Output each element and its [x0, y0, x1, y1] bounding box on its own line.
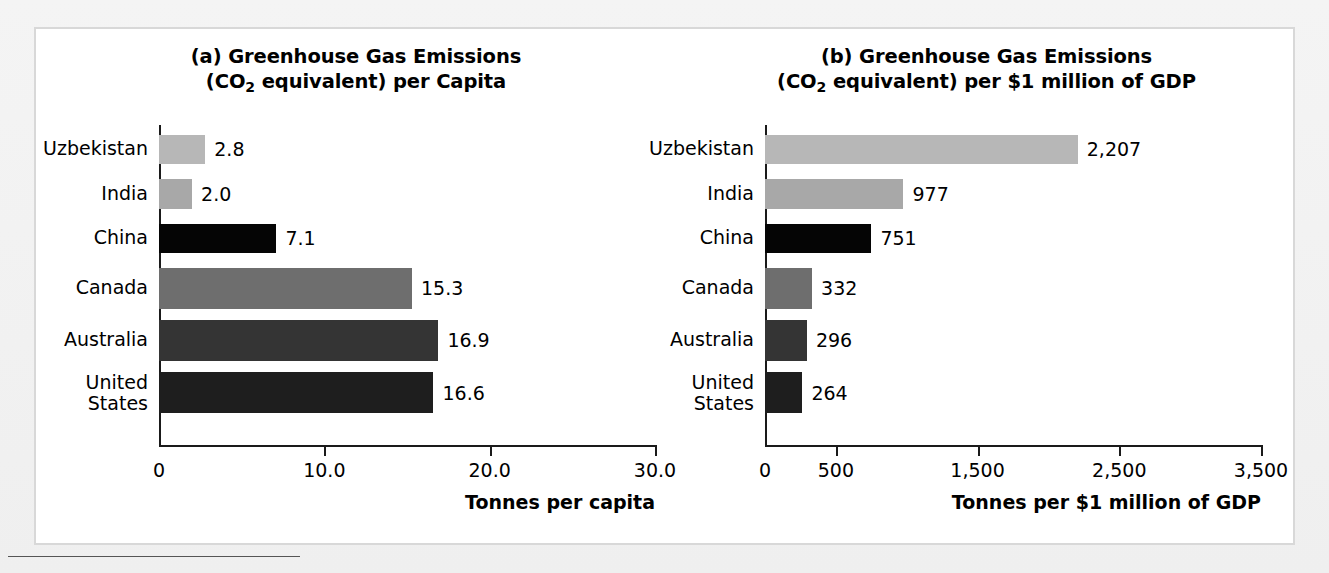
x-tick-label: 2,500: [1092, 459, 1146, 481]
category-label-united-states: United States: [86, 371, 148, 414]
bar-row: China751: [765, 224, 1261, 254]
bar-row: United States16.6: [159, 372, 655, 413]
panel-a-title: (a) Greenhouse Gas Emissions (CO2 equiva…: [36, 45, 676, 95]
x-tick: [324, 445, 326, 456]
bar-india: [159, 179, 192, 209]
panel-b-title-line2: (CO2 equivalent) per $1 million of GDP: [676, 70, 1297, 95]
bar-row: Canada332: [765, 268, 1261, 309]
bar-india: [765, 179, 903, 209]
category-label-china: China: [700, 228, 754, 249]
category-label-india: India: [101, 183, 148, 204]
bar-row: India2.0: [159, 179, 655, 209]
bar-row: Uzbekistan2,207: [765, 135, 1261, 165]
x-tick-label: 500: [818, 459, 854, 481]
panel-b-x-axis-label: Tonnes per $1 million of GDP: [952, 491, 1261, 513]
bar-value-label: 2.8: [214, 138, 244, 160]
panel-a-title-line2: (CO2 equivalent) per Capita: [36, 70, 676, 95]
bar-canada: [765, 268, 812, 309]
panel-a-plot-area: Uzbekistan2.8India2.0China7.1Canada15.3A…: [159, 125, 655, 447]
category-label-canada: Canada: [76, 278, 148, 299]
x-tick-label: 3,500: [1234, 459, 1288, 481]
bar-value-label: 332: [821, 277, 857, 299]
x-tick-label: 0: [153, 459, 165, 481]
panel-b-title-line1: (b) Greenhouse Gas Emissions: [676, 45, 1297, 70]
bar-china: [159, 224, 276, 254]
panel-a-x-axis-label: Tonnes per capita: [465, 491, 655, 513]
figure-card: (a) Greenhouse Gas Emissions (CO2 equiva…: [34, 27, 1295, 545]
bar-value-label: 264: [811, 382, 847, 404]
x-tick-label: 0: [759, 459, 771, 481]
x-tick: [490, 445, 492, 456]
x-tick: [836, 445, 838, 456]
x-tick: [1119, 445, 1121, 456]
bar-value-label: 16.6: [442, 382, 484, 404]
panel-b-title-subscript: 2: [817, 79, 827, 95]
bar-united-states: [159, 372, 433, 413]
footer-rule: [8, 556, 300, 557]
bar-row: Uzbekistan2.8: [159, 135, 655, 165]
panel-b-title-post: equivalent) per $1 million of GDP: [826, 70, 1196, 93]
panel-b-plot-area: Uzbekistan2,207India977China751Canada332…: [765, 125, 1261, 447]
x-tick: [978, 445, 980, 456]
bar-canada: [159, 268, 412, 309]
panel-b-bar-rows: Uzbekistan2,207India977China751Canada332…: [765, 125, 1261, 447]
category-label-australia: Australia: [670, 330, 754, 351]
chart-panels: (a) Greenhouse Gas Emissions (CO2 equiva…: [36, 29, 1293, 543]
x-tick-label: 10.0: [303, 459, 345, 481]
bar-united-states: [765, 372, 802, 413]
bar-uzbekistan: [765, 135, 1078, 165]
bar-value-label: 296: [816, 329, 852, 351]
panel-a-title-line1: (a) Greenhouse Gas Emissions: [36, 45, 676, 70]
bar-china: [765, 224, 871, 254]
category-label-uzbekistan: Uzbekistan: [649, 139, 754, 160]
chart-panel-b: (b) Greenhouse Gas Emissions (CO2 equiva…: [676, 29, 1297, 543]
x-tick-label: 20.0: [469, 459, 511, 481]
bar-value-label: 16.9: [447, 329, 489, 351]
panel-a-title-pre: (CO: [206, 70, 246, 93]
bar-row: China7.1: [159, 224, 655, 254]
x-tick: [1261, 445, 1263, 456]
panel-a-title-post: equivalent) per Capita: [255, 70, 506, 93]
x-tick: [655, 445, 657, 456]
bar-row: India977: [765, 179, 1261, 209]
category-label-uzbekistan: Uzbekistan: [43, 139, 148, 160]
bar-row: Australia16.9: [159, 320, 655, 361]
panel-a-title-subscript: 2: [245, 79, 255, 95]
bar-value-label: 7.1: [285, 227, 315, 249]
x-tick-label: 30.0: [634, 459, 676, 481]
x-tick-label: 1,500: [950, 459, 1004, 481]
bar-australia: [159, 320, 438, 361]
bar-value-label: 751: [880, 227, 916, 249]
panel-a-bar-rows: Uzbekistan2.8India2.0China7.1Canada15.3A…: [159, 125, 655, 447]
category-label-china: China: [94, 228, 148, 249]
category-label-australia: Australia: [64, 330, 148, 351]
category-label-india: India: [707, 183, 754, 204]
panel-b-title-pre: (CO: [777, 70, 817, 93]
bar-value-label: 2.0: [201, 183, 231, 205]
bar-uzbekistan: [159, 135, 205, 165]
bar-row: Australia296: [765, 320, 1261, 361]
bar-australia: [765, 320, 807, 361]
category-label-united-states: United States: [692, 371, 754, 414]
bar-value-label: 977: [912, 183, 948, 205]
bar-row: Canada15.3: [159, 268, 655, 309]
bar-value-label: 2,207: [1087, 138, 1141, 160]
bar-value-label: 15.3: [421, 277, 463, 299]
bar-row: United States264: [765, 372, 1261, 413]
panel-b-title: (b) Greenhouse Gas Emissions (CO2 equiva…: [676, 45, 1297, 95]
category-label-canada: Canada: [682, 278, 754, 299]
chart-panel-a: (a) Greenhouse Gas Emissions (CO2 equiva…: [36, 29, 676, 543]
